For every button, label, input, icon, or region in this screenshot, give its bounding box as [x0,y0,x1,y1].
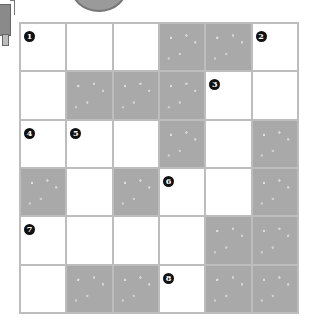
grid-cell-blocked [114,72,158,118]
grid-cell-blocked [21,169,65,215]
grid-cell-blocked [253,121,297,167]
figure-leg [2,34,9,46]
grid-cell-blocked [206,266,250,312]
grid-cell[interactable] [21,72,65,118]
grid-cell[interactable] [206,121,250,167]
grid-cell-blocked [206,24,250,70]
grid-cell[interactable]: 1 [21,24,65,70]
grid-cell-blocked [253,217,297,263]
grid-cell[interactable] [160,217,204,263]
partial-round-object-illustration [70,0,128,12]
grid-cell[interactable]: 4 [21,121,65,167]
clue-number-badge: 6 [163,176,174,187]
grid-cell[interactable] [206,169,250,215]
clue-number-badge: 7 [24,224,35,235]
clue-number-badge: 3 [209,79,220,90]
clue-number-badge: 1 [24,31,35,42]
crossword-grid: 12345678 [19,22,299,314]
grid-cell[interactable]: 2 [253,24,297,70]
grid-cell-blocked [160,24,204,70]
grid-cell-blocked [160,72,204,118]
grid-cell[interactable] [114,24,158,70]
grid-cell-blocked [160,121,204,167]
grid-cell-blocked [67,72,111,118]
grid-cell[interactable] [114,121,158,167]
grid-cell[interactable] [67,217,111,263]
grid-cell[interactable] [21,266,65,312]
grid-cell[interactable]: 7 [21,217,65,263]
clue-number-badge: 8 [163,273,174,284]
grid-cell-blocked [206,217,250,263]
grid-cell[interactable]: 3 [206,72,250,118]
grid-cell-blocked [114,266,158,312]
grid-cell-blocked [253,169,297,215]
clue-number-badge: 4 [24,128,35,139]
grid-cell-blocked [114,169,158,215]
clue-number-badge: 2 [256,31,267,42]
grid-cell-blocked [67,266,111,312]
grid-cell[interactable]: 8 [160,266,204,312]
grid-cell[interactable]: 5 [67,121,111,167]
grid-cell[interactable]: 6 [160,169,204,215]
clue-number-badge: 5 [70,128,81,139]
grid-cell-blocked [253,266,297,312]
grid-cell[interactable] [114,217,158,263]
partial-person-illustration [0,0,14,46]
grid-cell[interactable] [67,24,111,70]
grid-cell[interactable] [67,169,111,215]
figure-body [0,4,11,36]
grid-cell[interactable] [253,72,297,118]
